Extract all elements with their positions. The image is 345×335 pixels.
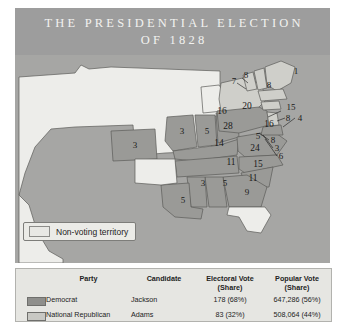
party-name-cell: National Republican [46, 310, 131, 325]
electoral-vote-cell: 83 (32%) [197, 310, 263, 325]
election-map: 8 7 1 8 20 16 15 8 4 28 16 5 8 3 6 24 3 … [15, 55, 330, 263]
popular-header-line1: Popular Vote [263, 274, 331, 283]
electoral-label: 1 [294, 67, 299, 76]
title-line-1: THE PRESIDENTIAL ELECTION [41, 15, 304, 32]
results-table-panel: Party Candidate Electoral Vote (Share) P… [15, 268, 332, 322]
candidate-name-cell: Jackson [131, 295, 197, 310]
electoral-label: 24 [250, 144, 260, 154]
electoral-label: 14 [214, 139, 224, 149]
state-connecticut [261, 101, 281, 110]
popular-header-line2: (Share) [263, 283, 331, 292]
electoral-label: 11 [248, 174, 257, 184]
electoral-vote-column-header: Electoral Vote (Share) [197, 269, 263, 295]
electoral-label: 8 [267, 81, 272, 90]
candidate-column-header: Candidate [131, 269, 197, 295]
electoral-label: 11 [226, 158, 235, 168]
electoral-label: 8 [244, 71, 249, 80]
electoral-label: 5 [181, 196, 186, 205]
electoral-label: 5 [223, 179, 228, 188]
state-massachusetts [258, 89, 287, 101]
electoral-label: 28 [223, 122, 233, 132]
electoral-header-line2: (Share) [197, 283, 263, 292]
table-row: National Republican Adams 83 (32%) 508,0… [16, 310, 331, 325]
electoral-label: 15 [253, 160, 263, 170]
table-header-row: Party Candidate Electoral Vote (Share) P… [16, 269, 331, 295]
title-band: THE PRESIDENTIAL ELECTION OF 1828 [15, 8, 330, 55]
infographic-root: THE PRESIDENTIAL ELECTION OF 1828 [0, 0, 345, 335]
party-color-cell [16, 310, 46, 325]
electoral-label: 6 [279, 152, 284, 161]
electoral-label: 3 [201, 179, 206, 188]
electoral-label: 8 [286, 114, 291, 123]
party-color-cell [16, 295, 46, 310]
non-voting-territory-legend: Non-voting territory [23, 222, 136, 241]
table-row: Democrat Jackson 178 (68%) 647,286 (56%) [16, 295, 331, 310]
electoral-label: 3 [180, 127, 185, 136]
national-republican-swatch-icon [27, 312, 46, 321]
electoral-label: 7 [232, 77, 237, 86]
electoral-label: 5 [205, 127, 210, 136]
state-arkansas-territory [135, 159, 177, 185]
swatch-column-header [16, 269, 46, 295]
non-voting-swatch-icon [29, 226, 50, 237]
non-voting-legend-label: Non-voting territory [56, 227, 128, 237]
results-table: Party Candidate Electoral Vote (Share) P… [16, 269, 331, 324]
electoral-vote-cell: 178 (68%) [197, 295, 263, 310]
electoral-label: 3 [133, 141, 138, 150]
electoral-header-line1: Electoral Vote [197, 274, 263, 283]
electoral-label: 20 [242, 102, 252, 112]
electoral-label: 4 [298, 114, 303, 123]
electoral-label: 5 [256, 132, 261, 141]
popular-vote-column-header: Popular Vote (Share) [263, 269, 331, 295]
electoral-label: 16 [264, 120, 274, 130]
electoral-label: 15 [287, 103, 296, 112]
party-column-header: Party [46, 269, 131, 295]
popular-vote-cell: 647,286 (56%) [263, 295, 331, 310]
electoral-label: 9 [245, 188, 250, 197]
candidate-name-cell: Adams [131, 310, 197, 325]
party-name-cell: Democrat [46, 295, 131, 310]
democrat-swatch-icon [27, 297, 46, 306]
popular-vote-cell: 508,064 (44%) [263, 310, 331, 325]
electoral-label: 16 [217, 107, 227, 117]
state-florida-territory [227, 207, 271, 233]
title-line-2: OF 1828 [138, 32, 208, 49]
